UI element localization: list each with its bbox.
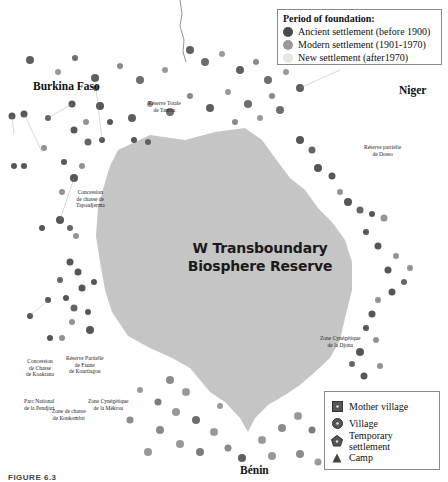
legend-item-new: New settlement (after1970) xyxy=(283,51,436,64)
legend-label: Temporary settlement xyxy=(349,430,433,452)
legend-period-title: Period of foundation: xyxy=(283,13,436,24)
reserve-area xyxy=(96,128,352,432)
legend-label: Ancient settlement (before 1900) xyxy=(298,26,430,37)
legend-label: Village xyxy=(349,418,378,429)
legend-label: Mother village xyxy=(349,401,408,412)
reserve-title-line2: Biosphere Reserve xyxy=(160,257,360,275)
new-settlement-dot-icon xyxy=(283,53,293,63)
zone-label-djona: Zone Cynégétique de la Djona xyxy=(320,335,360,348)
zone-label-dosso: Réserve partielle de Dosso xyxy=(364,144,401,157)
reserve-title: W Transboundary Biosphere Reserve xyxy=(160,239,360,275)
pentagon-icon xyxy=(331,435,343,447)
legend-label: Modern settlement (1901-1970) xyxy=(298,39,426,50)
country-label-benin: Bénin xyxy=(240,464,269,476)
legend-settlement-type: Mother village Village Temporary settlem… xyxy=(324,391,440,470)
zone-label-koakrana: Concession de Chasse de Koakrana xyxy=(26,358,54,378)
zone-label-mekrou: Zone Cynégétique de la Mékrou xyxy=(88,398,128,411)
circle-dot-icon xyxy=(331,418,343,430)
river xyxy=(180,0,186,62)
reserve-title-line1: W Transboundary xyxy=(160,239,360,257)
country-label-burkina-faso: Burkina Faso xyxy=(33,80,100,92)
legend-label: New settlement (after1970) xyxy=(298,52,408,63)
legend-item-modern: Modern settlement (1901-1970) xyxy=(283,38,436,51)
legend-item-ancient: Ancient settlement (before 1900) xyxy=(283,25,436,38)
square-dot-icon xyxy=(331,401,343,413)
legend-item-temporary-settlement: Temporary settlement xyxy=(331,432,433,449)
triangle-icon xyxy=(331,452,343,464)
ancient-settlement-dot-icon xyxy=(283,27,293,37)
figure-caption: FIGURE 6.3 xyxy=(8,473,57,482)
modern-settlement-dot-icon xyxy=(283,40,293,50)
country-label-niger: Niger xyxy=(399,84,426,96)
zone-label-pendjari: Parc National de la Pendjari xyxy=(24,398,54,411)
zone-label-kourtiagou: Réserve Partielle de Faune de Kourtiagou xyxy=(66,355,103,375)
zone-label-tamou: Réserve Totale de Tamou xyxy=(148,100,181,113)
legend-label: Camp xyxy=(349,452,373,463)
legend-item-camp: Camp xyxy=(331,449,433,466)
legend-period-of-foundation: Period of foundation: Ancient settlement… xyxy=(277,9,442,65)
legend-item-mother-village: Mother village xyxy=(331,398,433,415)
zone-label-konkombri: Zone de chasse de Konkombri xyxy=(52,408,86,421)
zone-label-tapoadjerma: Concession de chasse de Tapoadjerma xyxy=(76,189,105,209)
